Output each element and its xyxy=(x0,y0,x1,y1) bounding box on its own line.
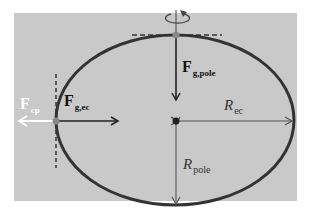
pole-point xyxy=(173,32,180,39)
label-r-ec: Rec xyxy=(224,97,243,113)
center-point xyxy=(173,118,180,125)
rotation-arrow-icon xyxy=(166,10,190,35)
label-f-g-ec: Fg,ec xyxy=(64,93,90,109)
spheroid-diagram xyxy=(0,0,310,218)
label-f-cp: Fcp xyxy=(20,96,40,112)
label-r-pole: Rpole xyxy=(183,156,210,172)
equator-point xyxy=(53,118,60,125)
label-f-g-pole: Fg,pole xyxy=(182,59,216,75)
